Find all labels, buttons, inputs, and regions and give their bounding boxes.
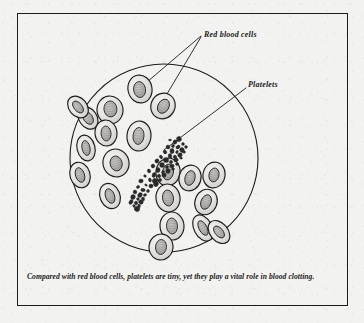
platelet bbox=[130, 194, 136, 200]
platelet bbox=[128, 199, 134, 205]
platelet bbox=[143, 193, 147, 197]
platelet bbox=[139, 179, 144, 183]
platelet bbox=[136, 185, 141, 189]
platelet bbox=[169, 139, 172, 141]
red-blood-cell bbox=[191, 186, 221, 218]
platelet bbox=[143, 174, 147, 178]
platelet bbox=[144, 183, 148, 187]
red-blood-cell bbox=[154, 182, 182, 214]
platelet bbox=[148, 184, 153, 189]
label-red-blood-cells: Red blood cells bbox=[204, 30, 257, 39]
platelet bbox=[162, 173, 167, 178]
platelet bbox=[159, 154, 164, 159]
platelet bbox=[181, 142, 184, 145]
platelet bbox=[169, 148, 174, 154]
red-blood-cell bbox=[125, 73, 154, 105]
platelet bbox=[162, 149, 167, 154]
red-blood-cell bbox=[126, 120, 153, 152]
red-blood-cell bbox=[201, 160, 228, 190]
platelet bbox=[184, 145, 187, 148]
platelet bbox=[146, 189, 150, 193]
platelet bbox=[140, 188, 145, 192]
red-blood-cell bbox=[74, 133, 98, 163]
platelet bbox=[147, 168, 152, 173]
platelet bbox=[163, 157, 169, 162]
platelet bbox=[159, 162, 164, 168]
label-platelets: Platelets bbox=[248, 80, 278, 89]
figure-page: Red blood cells Platelets Compared with … bbox=[0, 0, 364, 323]
platelet bbox=[133, 190, 137, 195]
red-blood-cell bbox=[100, 146, 133, 180]
leader-lines-group bbox=[140, 36, 246, 150]
platelet bbox=[150, 163, 155, 168]
platelet bbox=[148, 178, 152, 183]
platelet bbox=[165, 168, 170, 173]
figure-caption: Compared with red blood cells, platelets… bbox=[27, 272, 325, 283]
red-blood-cell bbox=[96, 180, 124, 212]
